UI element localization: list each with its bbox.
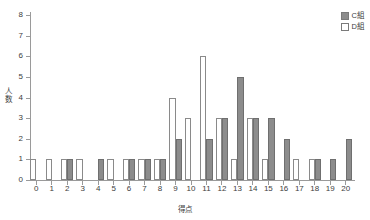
y-axis-title-char-2: 数 [2, 96, 14, 104]
x-tick-label-5: 5 [106, 184, 122, 193]
x-tick-label-10: 10 [183, 184, 199, 193]
x-tick-label-0: 0 [28, 184, 44, 193]
bar-chart: C組 D組 人 数 得点 012345678 01234567891011121… [0, 0, 370, 220]
x-tick-label-13: 13 [229, 184, 245, 193]
y-tick-0: 0 [26, 180, 30, 181]
bar-d-1 [46, 159, 52, 180]
y-tick-label-5: 5 [19, 72, 23, 81]
x-tick-label-11: 11 [198, 184, 214, 193]
plot-area: 012345678 012345678910111213141516171819… [30, 15, 355, 181]
y-axis-title: 人 数 [2, 88, 14, 103]
x-tick-label-20: 20 [338, 184, 354, 193]
y-tick-8: 8 [26, 15, 30, 16]
bar-c-16 [284, 139, 290, 180]
y-tick-7: 7 [26, 36, 30, 37]
y-tick-6: 6 [26, 56, 30, 57]
y-tick-5: 5 [26, 77, 30, 78]
x-tick-label-14: 14 [245, 184, 261, 193]
bar-d-10 [185, 118, 191, 180]
y-tick-label-6: 6 [19, 51, 23, 60]
bar-c-13 [237, 77, 243, 180]
bar-c-9 [176, 139, 182, 180]
bar-c-20 [346, 139, 352, 180]
x-tick-label-2: 2 [59, 184, 75, 193]
x-tick-label-4: 4 [90, 184, 106, 193]
bar-c-19 [330, 159, 336, 180]
x-tick-label-17: 17 [291, 184, 307, 193]
x-tick-label-7: 7 [137, 184, 153, 193]
y-tick-label-4: 4 [19, 93, 23, 102]
bar-c-4 [98, 159, 104, 180]
bar-c-7 [145, 159, 151, 180]
x-tick-label-9: 9 [168, 184, 184, 193]
y-tick-label-7: 7 [19, 31, 23, 40]
y-tick-3: 3 [26, 118, 30, 119]
x-tick-label-3: 3 [75, 184, 91, 193]
x-tick-label-19: 19 [322, 184, 338, 193]
y-tick-2: 2 [26, 139, 30, 140]
x-tick-label-6: 6 [121, 184, 137, 193]
bar-c-11 [206, 139, 212, 180]
bar-d-0 [30, 159, 36, 180]
y-tick-4: 4 [26, 98, 30, 99]
x-tick-label-12: 12 [214, 184, 230, 193]
bar-d-5 [107, 159, 113, 180]
y-tick-label-2: 2 [19, 134, 23, 143]
bar-d-17 [293, 159, 299, 180]
x-axis-title: 得点 [0, 203, 370, 214]
x-tick-label-18: 18 [307, 184, 323, 193]
y-tick-label-8: 8 [19, 10, 23, 19]
y-tick-label-1: 1 [19, 154, 23, 163]
bar-c-6 [129, 159, 135, 180]
y-axis-line [30, 12, 31, 181]
bar-c-12 [222, 118, 228, 180]
bar-c-18 [315, 159, 321, 180]
y-tick-label-3: 3 [19, 113, 23, 122]
bar-c-14 [253, 118, 259, 180]
x-tick-label-15: 15 [260, 184, 276, 193]
bar-c-15 [268, 118, 274, 180]
y-tick-label-0: 0 [19, 175, 23, 184]
bar-c-8 [160, 159, 166, 180]
x-tick-label-1: 1 [44, 184, 60, 193]
x-tick-label-16: 16 [276, 184, 292, 193]
x-tick-label-8: 8 [152, 184, 168, 193]
bar-d-3 [76, 159, 82, 180]
bar-c-2 [67, 159, 73, 180]
x-axis-line [30, 180, 355, 181]
